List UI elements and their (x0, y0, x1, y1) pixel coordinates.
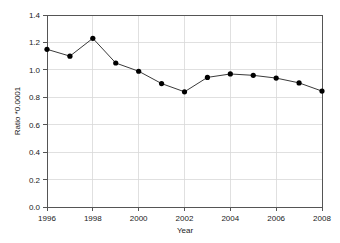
line-chart-canvas: 0.00.20.40.60.81.01.21.4 199619982000200… (0, 0, 340, 243)
data-point-marker (274, 75, 279, 80)
data-point-marker (67, 54, 72, 59)
x-tick-label: 2002 (176, 214, 194, 223)
grid-lines (47, 15, 322, 207)
x-tick-label: 2008 (313, 214, 331, 223)
x-tick-label: 1996 (38, 214, 56, 223)
data-point-marker (182, 89, 187, 94)
data-point-marker (205, 75, 210, 80)
data-point-marker (44, 47, 49, 52)
y-tick-label: 1.4 (29, 11, 41, 20)
data-point-marker (90, 36, 95, 41)
chart-figure: 0.00.20.40.60.81.01.21.4 199619982000200… (0, 0, 340, 243)
y-tick-label: 0.2 (29, 176, 41, 185)
x-tick-labels: 1996199820002002200420062008 (38, 214, 331, 223)
y-tick-label: 0.8 (29, 93, 41, 102)
x-axis-title: Year (177, 226, 194, 235)
y-tick-label: 1.2 (29, 38, 41, 47)
y-tick-label: 0.6 (29, 121, 41, 130)
data-point-marker (319, 89, 324, 94)
x-tick-label: 2006 (267, 214, 285, 223)
x-tick-label: 1998 (84, 214, 102, 223)
data-point-marker (113, 60, 118, 65)
y-axis-title: Ratio *0.0001 (13, 86, 22, 135)
y-tick-label: 0.4 (29, 148, 41, 157)
x-tick-label: 2004 (221, 214, 239, 223)
y-tick-label: 0.0 (29, 203, 41, 212)
data-point-marker (228, 71, 233, 76)
data-point-marker (159, 81, 164, 86)
data-point-marker (136, 69, 141, 74)
data-point-marker (251, 73, 256, 78)
y-tick-labels: 0.00.20.40.60.81.01.21.4 (29, 11, 41, 212)
data-point-marker (296, 80, 301, 85)
y-tick-label: 1.0 (29, 66, 41, 75)
x-tick-label: 2000 (130, 214, 148, 223)
